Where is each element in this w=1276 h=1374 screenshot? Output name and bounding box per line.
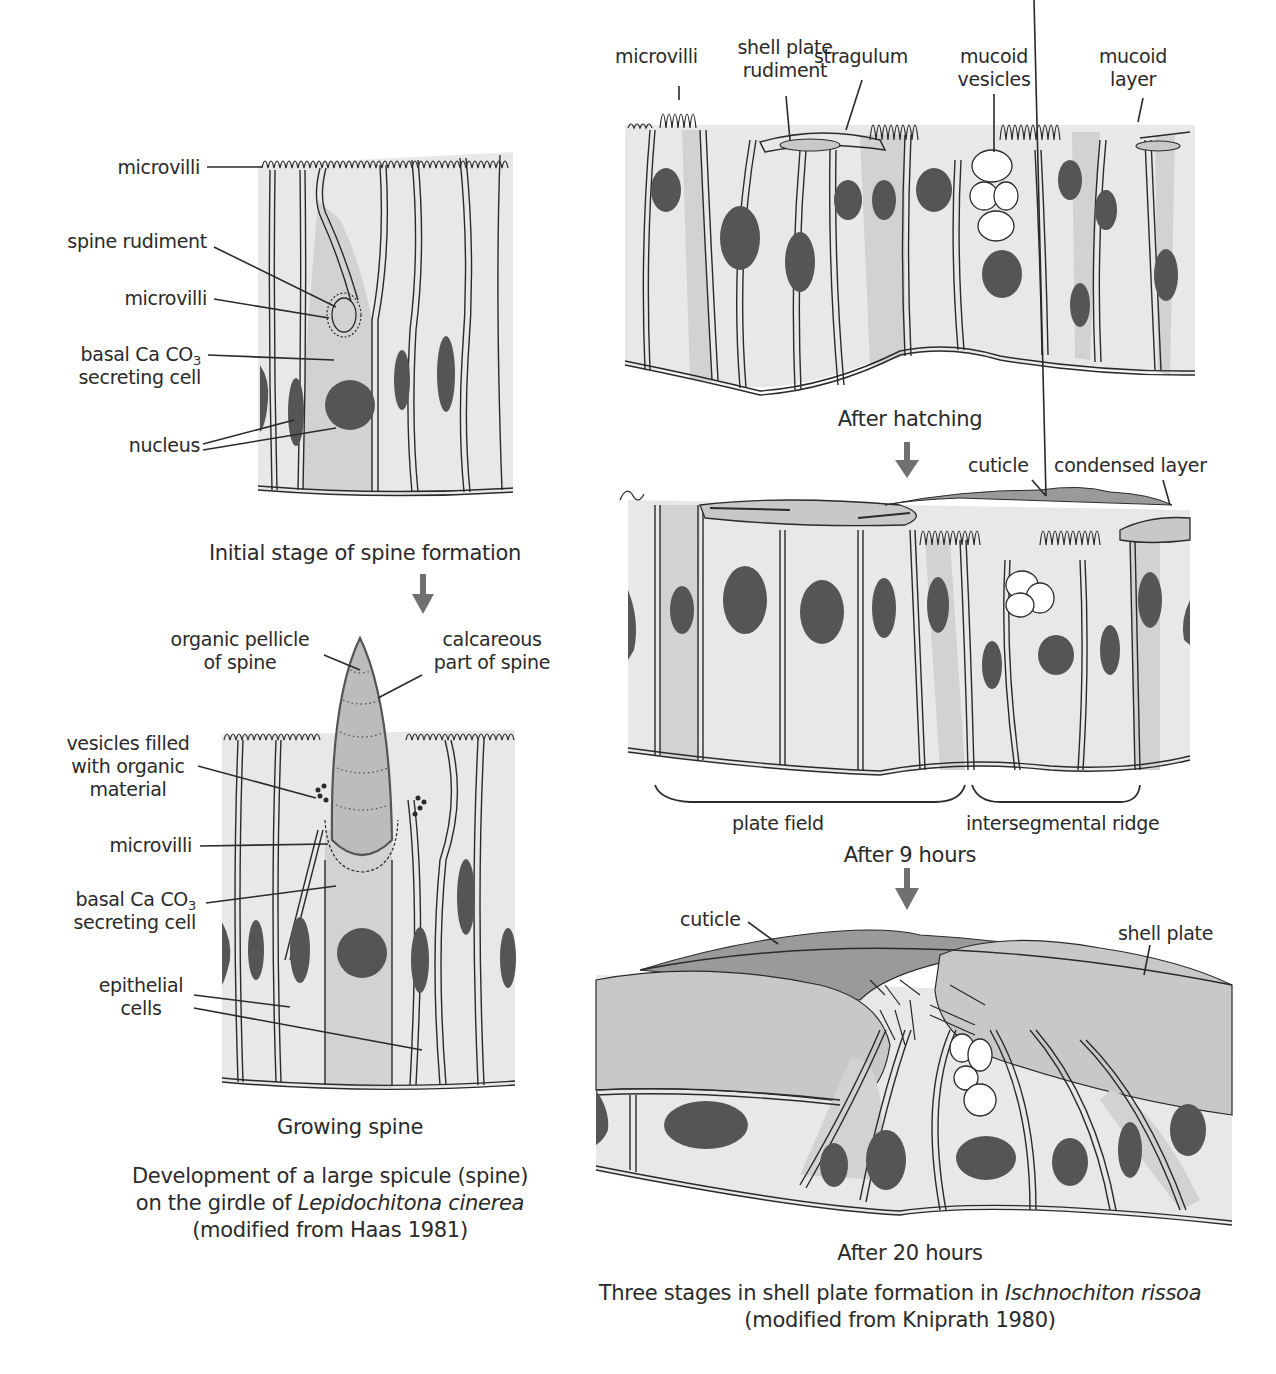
label-condensed-layer: condensed layer: [1054, 454, 1207, 477]
stage-title-initial: Initial stage of spine formation: [170, 540, 560, 567]
label-calcareous-part: calcareouspart of spine: [422, 628, 562, 674]
caption-left: Development of a large spicule (spine) o…: [110, 1163, 550, 1244]
label-intersegmental-ridge: intersegmental ridge: [966, 812, 1159, 835]
label-nucleus: nucleus: [129, 434, 200, 457]
label-epithelial-cells: epithelialcells: [86, 974, 196, 1020]
label-microvilli: microvilli: [124, 287, 207, 310]
label-microvilli-spine: microvilli: [109, 834, 192, 857]
caption-right: Three stages in shell plate formation in…: [580, 1280, 1220, 1334]
label-vesicles-filled: vesicles filledwith organicmaterial: [58, 732, 198, 801]
label-spine-rudiment: spine rudiment: [67, 230, 207, 253]
label-microvilli-r: microvilli: [615, 45, 698, 68]
after-20-hours-illustration: [596, 922, 1232, 1225]
label-plate-field: plate field: [732, 812, 824, 835]
initial-stage-illustration: [203, 152, 513, 496]
label-shell-plate: shell plate: [1118, 922, 1213, 945]
label-microvilli-top: microvilli: [117, 156, 200, 179]
stage-title-after-9-hours: After 9 hours: [820, 842, 1000, 869]
arrow-down-icon: [895, 868, 919, 910]
label-mucoid-layer: mucoidlayer: [1088, 45, 1178, 91]
label-cuticle-20h: cuticle: [680, 908, 741, 931]
label-organic-pellicle: organic pellicleof spine: [160, 628, 320, 674]
arrow-down-icon: [895, 442, 919, 478]
growing-spine-illustration: [194, 638, 516, 1089]
after-9-hours-illustration: [620, 0, 1190, 802]
arrow-down-icon: [412, 574, 434, 614]
label-mucoid-vesicles: mucoidvesicles: [944, 45, 1044, 91]
stage-title-after-hatching: After hatching: [820, 406, 1000, 433]
after-hatching-illustration: [625, 80, 1195, 395]
stage-title-after-20-hours: After 20 hours: [810, 1240, 1010, 1267]
stage-title-growing: Growing spine: [240, 1114, 460, 1141]
label-basal-secreting-cell: basal Ca CO3secreting cell: [79, 343, 201, 389]
label-cuticle-9h: cuticle: [968, 454, 1029, 477]
label-basal-secreting-cell-2: basal Ca CO3secreting cell: [74, 888, 196, 934]
label-stragulum: stragulum: [814, 45, 908, 68]
